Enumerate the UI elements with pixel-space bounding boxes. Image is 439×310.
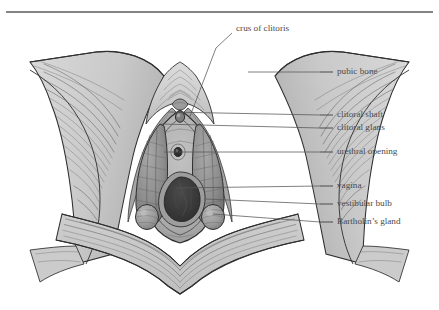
- label-vestibular-bulb: vestibular bulb: [337, 198, 392, 208]
- clitoral-glans: [175, 112, 184, 122]
- anatomical-figure: crus of clitoris pubic bone clitoral sha…: [0, 0, 439, 310]
- diagram-canvas: crus of clitoris pubic bone clitoral sha…: [0, 0, 439, 310]
- bartholin-gland-right: [202, 205, 225, 230]
- label-clitoral-shaft: clitoral shaft: [337, 109, 384, 119]
- label-crus-of-clitoris: crus of clitoris: [236, 23, 289, 33]
- label-vagina: vagina: [337, 180, 362, 190]
- label-clitoral-glans: clitoral glans: [337, 122, 385, 132]
- bartholin-gland-left: [136, 205, 159, 230]
- label-pubic-bone: pubic bone: [337, 66, 378, 76]
- label-bartholins-gland: Bartholin’s gland: [337, 216, 401, 226]
- label-urethral-opening: urethral opening: [337, 146, 398, 156]
